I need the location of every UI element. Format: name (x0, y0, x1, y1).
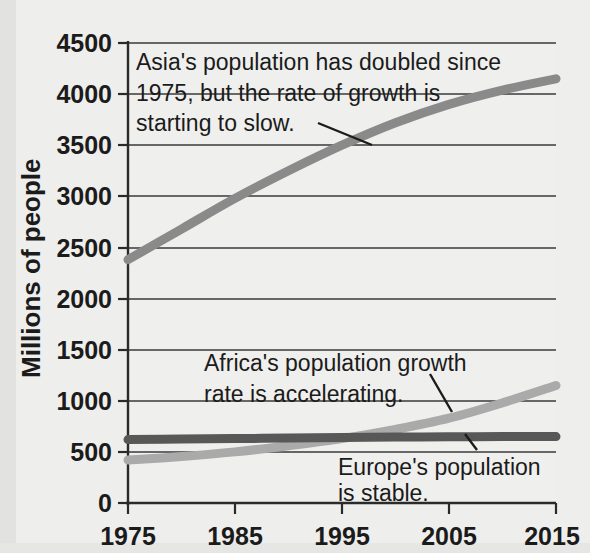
x-tick-label-1975: 1975 (100, 522, 156, 550)
africa-annotation-line-1: Africa's population growth (204, 350, 467, 376)
x-tick-label-1995: 1995 (314, 522, 370, 550)
x-axis-tick-labels: 1975 1985 1995 2005 2015 (100, 522, 580, 550)
y-tick-label-1500: 1500 (56, 336, 112, 364)
y-tick-label-3500: 3500 (56, 131, 112, 159)
y-axis-title: Millions of people (16, 158, 46, 378)
series-line-europe (128, 437, 556, 440)
y-axis-ticks (118, 43, 128, 503)
europe-annotation-line-1: Europe's population (338, 454, 541, 480)
chart-canvas: 4500 4000 3500 3000 2500 2000 1500 1000 … (0, 0, 590, 553)
y-tick-label-3000: 3000 (56, 182, 112, 210)
y-tick-label-1000: 1000 (56, 387, 112, 415)
y-tick-label-0: 0 (98, 489, 112, 517)
y-tick-label-500: 500 (70, 438, 112, 466)
y-axis-tick-labels: 4500 4000 3500 3000 2500 2000 1500 1000 … (56, 29, 112, 517)
x-tick-label-1985: 1985 (207, 522, 263, 550)
y-tick-label-2500: 2500 (56, 234, 112, 262)
y-tick-label-4000: 4000 (56, 80, 112, 108)
asia-annotation-line-1: Asia's population has doubled since (136, 49, 501, 75)
y-tick-label-2000: 2000 (56, 285, 112, 313)
x-tick-label-2015: 2015 (524, 522, 580, 550)
population-chart: 4500 4000 3500 3000 2500 2000 1500 1000 … (0, 0, 590, 553)
africa-annotation-line-2: rate is accelerating. (204, 381, 403, 407)
asia-annotation-line-3: starting to slow. (136, 110, 295, 136)
x-tick-label-2005: 2005 (421, 522, 477, 550)
europe-annotation-line-2: is stable. (338, 480, 429, 506)
y-tick-label-4500: 4500 (56, 29, 112, 57)
asia-annotation-line-2: 1975, but the rate of growth is (136, 80, 440, 106)
